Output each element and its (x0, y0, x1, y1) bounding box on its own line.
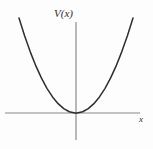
physics-figure-parabola: V(x) x (0, 0, 153, 149)
y-axis-label: V(x) (54, 8, 73, 19)
plot-canvas (0, 0, 153, 149)
x-axis-label: x (139, 115, 143, 124)
